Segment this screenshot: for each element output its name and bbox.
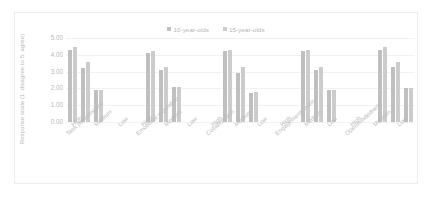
bar[interactable]: [254, 92, 258, 122]
bar[interactable]: [151, 51, 155, 122]
bar[interactable]: [68, 50, 72, 122]
bar-series-container: [66, 38, 415, 122]
bar-chart: 10-year-olds 15-year-olds Response scale…: [14, 12, 418, 184]
legend-swatch-icon: [167, 27, 171, 31]
level-group: [327, 38, 336, 122]
bar[interactable]: [236, 73, 240, 122]
y-tick-label: 2.00: [51, 85, 63, 91]
y-tick-label: 3.00: [51, 69, 63, 75]
y-tick-label: 5.00: [51, 35, 63, 41]
y-tick-label: 4.00: [51, 52, 63, 58]
chart-legend: 10-year-olds 15-year-olds: [15, 23, 417, 35]
bar[interactable]: [409, 88, 413, 122]
level-group: [68, 38, 77, 122]
level-group: [404, 38, 413, 122]
x-axis-labels: HighMediumLowTask performanceHighMediumL…: [66, 123, 417, 181]
level-group: [236, 38, 245, 122]
level-group: [146, 38, 155, 122]
y-axis-title: Response scale (1: disagree to 5: agree): [17, 33, 27, 145]
y-tick-label: 1.00: [51, 102, 63, 108]
y-axis-ticks: 5.004.003.002.001.000.00: [41, 38, 65, 122]
category-group: [378, 38, 413, 122]
legend-label: 15-year-olds: [229, 26, 265, 33]
bar[interactable]: [146, 53, 150, 122]
plot-canvas: [66, 38, 415, 122]
bar[interactable]: [378, 50, 382, 122]
bar[interactable]: [327, 90, 331, 122]
y-tick-label: 0.00: [51, 119, 63, 125]
legend-entry-10-year-olds[interactable]: 10-year-olds: [167, 26, 209, 33]
bar[interactable]: [396, 62, 400, 122]
bar[interactable]: [73, 47, 77, 122]
legend-swatch-icon: [223, 27, 227, 31]
legend-entry-15-year-olds[interactable]: 15-year-olds: [223, 26, 265, 33]
bar[interactable]: [249, 93, 253, 122]
legend-label: 10-year-olds: [173, 26, 209, 33]
level-group: [391, 38, 400, 122]
